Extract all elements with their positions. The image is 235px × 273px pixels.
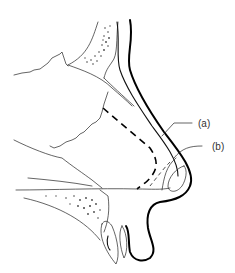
skin-profile-line	[126, 20, 191, 260]
bone-stipple	[84, 25, 110, 65]
upper-lip-inner	[120, 226, 127, 258]
palate-line	[16, 188, 170, 190]
nostril-outline	[168, 166, 186, 191]
label-a: (a)	[198, 118, 210, 129]
incisor-tooth	[101, 221, 118, 264]
maxilla	[24, 190, 109, 240]
palate-upper-line	[28, 178, 92, 186]
label-b: (b)	[212, 141, 224, 152]
nose-section-diagram: (a) (b)	[0, 0, 235, 273]
septum-jagged-edge	[50, 92, 108, 148]
upper-jagged-edge	[14, 52, 68, 75]
nasal-bone	[68, 22, 134, 106]
